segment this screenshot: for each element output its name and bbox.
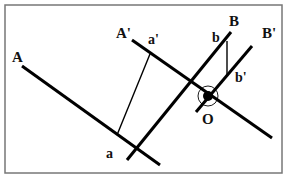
diagram-frame <box>5 5 282 173</box>
label-a-prime: A' <box>116 25 131 41</box>
label-o: O <box>202 111 214 127</box>
point-o <box>198 86 218 106</box>
label-b-prime: B' <box>262 25 276 41</box>
label-b-prime: b' <box>235 70 247 85</box>
label-b: b <box>212 30 220 45</box>
point-o-dot <box>203 91 213 101</box>
line-aa-prime <box>117 54 150 135</box>
label-b: B <box>229 13 239 29</box>
label-a-prime: a' <box>148 32 159 47</box>
diagram-figure: AA'a'BbB'b'Oa <box>0 0 286 181</box>
diagram-canvas: AA'a'BbB'b'Oa <box>0 0 286 181</box>
line-b <box>127 32 231 160</box>
label-a: A <box>12 49 23 65</box>
label-a: a <box>106 146 113 161</box>
lines-layer <box>22 32 272 165</box>
